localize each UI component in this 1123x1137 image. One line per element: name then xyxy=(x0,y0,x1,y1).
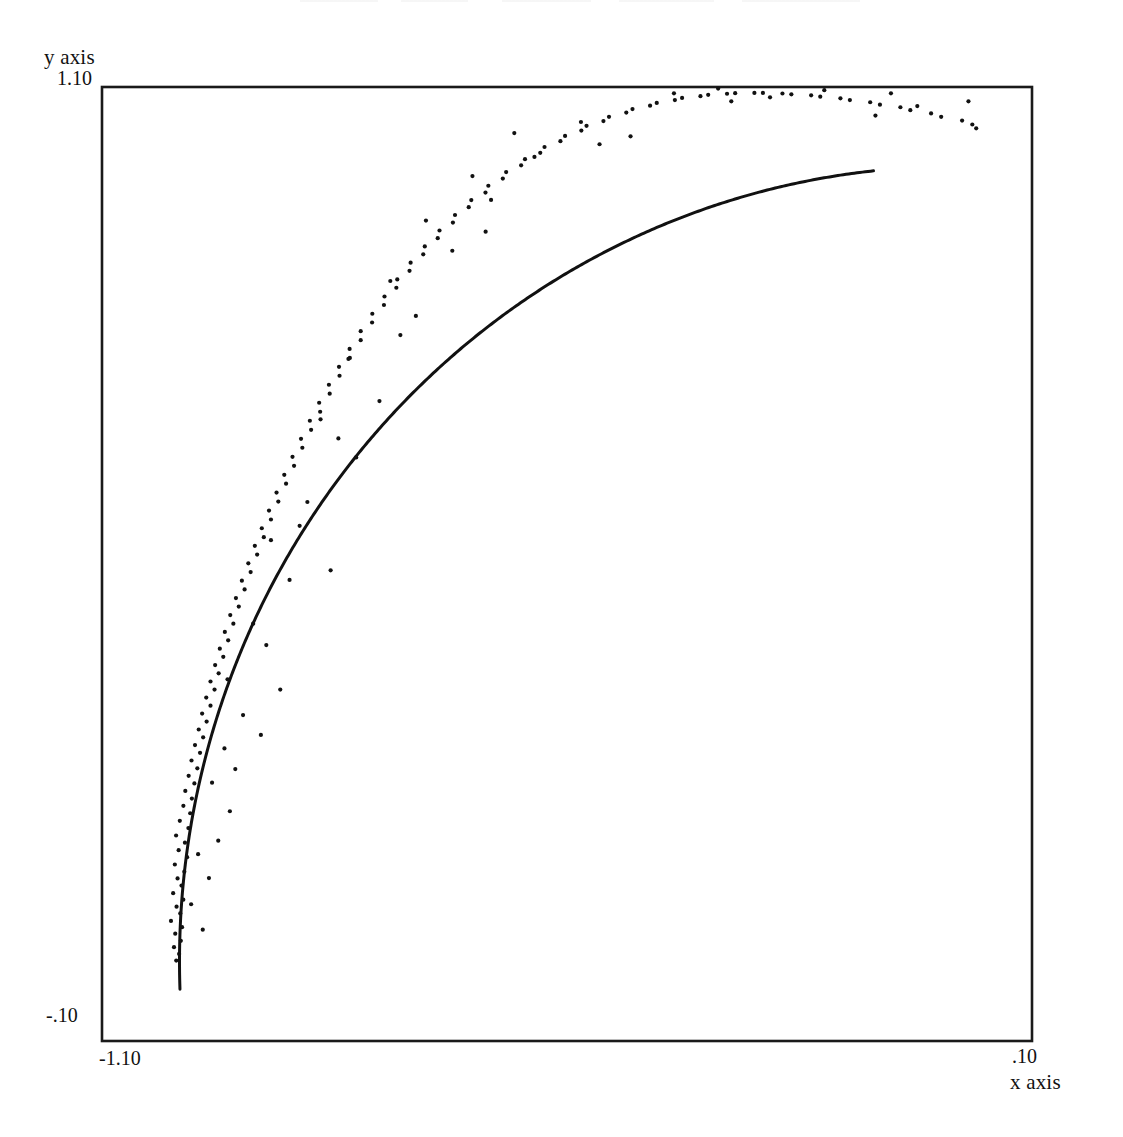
scatter-point xyxy=(205,719,209,723)
scatter-point xyxy=(278,688,282,692)
scatter-point xyxy=(680,96,684,100)
scatter-point xyxy=(716,86,720,90)
scatter-point xyxy=(346,357,350,361)
scatter-point xyxy=(189,758,193,762)
scatter-point xyxy=(190,796,194,800)
scatter-point xyxy=(284,482,288,486)
scatter-point xyxy=(196,852,200,856)
scatter-point xyxy=(489,198,493,202)
scatter-point xyxy=(309,428,313,432)
scatter-point xyxy=(780,91,784,95)
scatter-point xyxy=(450,249,454,253)
scatter-point xyxy=(177,848,181,852)
scatter-point xyxy=(761,91,765,95)
scatter-point xyxy=(601,119,605,123)
scatter-point xyxy=(519,163,523,167)
scatter-point xyxy=(414,314,418,318)
scatter-point xyxy=(187,774,191,778)
scatter-point xyxy=(584,124,588,128)
scatter-point xyxy=(201,735,205,739)
scatter-point xyxy=(337,365,341,369)
scatter-point xyxy=(908,108,912,112)
scatter-point xyxy=(538,151,542,155)
scatter-point xyxy=(264,643,268,647)
scatter-point xyxy=(216,839,220,843)
scatter-point xyxy=(212,688,216,692)
scatter-point xyxy=(269,517,273,521)
scatter-point xyxy=(939,115,943,119)
scatter-point xyxy=(504,170,508,174)
scatter-point xyxy=(228,809,232,813)
scatter-point xyxy=(873,114,877,118)
scatter-point xyxy=(208,704,212,708)
scatter-point xyxy=(542,145,546,149)
scatter-point xyxy=(287,578,291,582)
plot-area xyxy=(0,0,1123,1137)
scatter-point xyxy=(246,561,250,565)
scatter-point xyxy=(673,98,677,102)
figure-canvas: y axis 1.10 -.10 -1.10 .10 x axis xyxy=(0,0,1123,1137)
scatter-point xyxy=(752,91,756,95)
scatter-point xyxy=(259,733,263,737)
scatter-point xyxy=(974,126,978,130)
scatter-point xyxy=(424,218,428,222)
scatter-point xyxy=(318,410,322,414)
scatter-point xyxy=(648,104,652,108)
scatter-point xyxy=(579,120,583,124)
scatter-point xyxy=(469,198,473,202)
scatter-point xyxy=(175,876,179,880)
scatter-point xyxy=(915,104,919,108)
scatter-point xyxy=(359,329,363,333)
scatter-point xyxy=(437,228,441,232)
scatter-point xyxy=(276,499,280,503)
scatter-point xyxy=(898,105,902,109)
scatter-point xyxy=(729,99,733,103)
scatter-point xyxy=(655,101,659,105)
scatter-point xyxy=(174,958,178,962)
scatter-point xyxy=(467,205,471,209)
scatter-point xyxy=(818,95,822,99)
scatter-points-layer xyxy=(169,86,978,962)
scatter-point xyxy=(317,401,321,405)
scatter-point xyxy=(243,587,247,591)
scatter-point xyxy=(231,622,235,626)
scatter-point xyxy=(388,279,392,283)
scatter-point xyxy=(395,277,399,281)
scatter-point xyxy=(197,727,201,731)
scatter-point xyxy=(337,374,341,378)
scatter-point xyxy=(725,92,729,96)
scatter-point xyxy=(200,712,204,716)
scatter-point xyxy=(228,613,232,617)
scatter-point xyxy=(868,100,872,104)
scatter-point xyxy=(262,535,266,539)
scatter-point xyxy=(597,142,601,146)
scatter-point xyxy=(292,464,296,468)
scatter-point xyxy=(628,134,632,138)
scatter-point xyxy=(579,128,583,132)
scatter-point xyxy=(822,88,826,92)
scatter-point xyxy=(218,647,222,651)
scatter-point xyxy=(173,862,177,866)
scatter-point xyxy=(336,436,340,440)
scatter-point xyxy=(300,446,304,450)
scatter-point xyxy=(169,919,173,923)
scatter-point xyxy=(249,570,253,574)
scatter-point xyxy=(282,473,286,477)
scatter-point xyxy=(327,383,331,387)
scatter-point xyxy=(733,91,737,95)
scatter-point xyxy=(532,155,536,159)
scatter-point xyxy=(423,244,427,248)
scatter-point xyxy=(193,743,197,747)
fitted-arc-curve xyxy=(180,171,874,989)
scatter-point xyxy=(240,579,244,583)
scatter-point xyxy=(607,115,611,119)
scatter-point xyxy=(563,134,567,138)
scatter-point xyxy=(260,526,264,530)
scatter-point xyxy=(269,538,273,542)
scatter-point xyxy=(706,93,710,97)
scatter-point xyxy=(484,230,488,234)
scatter-point xyxy=(370,312,374,316)
scatter-point xyxy=(382,294,386,298)
scatter-point xyxy=(274,491,278,495)
scatter-point xyxy=(192,781,196,785)
